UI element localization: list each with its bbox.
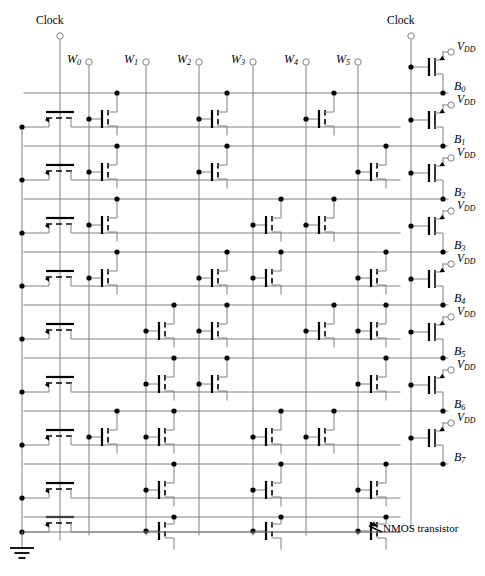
pmos-source-junction [440,143,445,148]
clock-nmos-drain-wire [71,118,400,127]
word-line-junction [355,487,360,492]
word-line-junction [196,116,201,121]
word-line-junction [143,328,148,333]
word-line-junction [143,528,148,533]
word-line-junction [143,381,148,386]
rom-drain-junction [224,355,229,360]
rom-drain-wire [108,411,117,430]
pmos-arrow-icon [440,427,446,431]
word-line-junction [355,328,360,333]
vdd-terminal[interactable] [448,49,454,55]
word-line-terminal-3[interactable] [250,59,256,65]
rom-drain-wire [218,252,227,271]
word-line-terminal-0[interactable] [86,59,92,65]
word-line-junction [86,434,91,439]
vdd-terminal[interactable] [448,314,454,320]
rom-drain-junction [171,355,176,360]
rom-drain-wire [165,464,174,483]
rom-drain-wire [377,305,386,324]
word-line-label-0: W0 [67,53,81,67]
pmos-source-wire [435,180,443,199]
rom-drain-wire [108,146,117,165]
rom-drain-junction [331,408,336,413]
clock-terminal-right[interactable] [408,33,414,39]
word-line-junction [86,169,91,174]
pmos-arrow-icon [440,215,446,219]
clock-nmos-drain-wire [71,330,400,339]
ground-rail-junction [19,124,24,129]
ground-rail-junction [19,442,24,447]
vdd-terminal[interactable] [448,102,454,108]
word-line-junction [303,434,308,439]
rom-drain-junction [383,461,388,466]
ground-rail-junction [19,389,24,394]
word-line-junction [250,434,255,439]
rom-drain-wire [325,93,334,112]
rom-drain-wire [218,146,227,165]
rom-drain-junction [383,249,388,254]
word-line-label-3: W3 [231,53,245,67]
pmos-gate-junction [408,117,413,122]
word-line-junction [143,487,148,492]
vdd-terminal[interactable] [448,155,454,161]
pmos-source-wire [435,74,443,93]
word-line-terminal-1[interactable] [143,59,149,65]
rom-drain-wire [377,252,386,271]
pmos-source-junction [440,408,445,413]
rom-drain-junction [224,249,229,254]
vdd-terminal[interactable] [448,261,454,267]
clock-nmos-source-wire [22,224,49,233]
rom-drain-wire [377,464,386,483]
word-line-terminal-5[interactable] [355,59,361,65]
pmos-source-wire [435,233,443,252]
rom-drain-junction [331,302,336,307]
clock-label-left: Clock [36,15,63,27]
word-line-junction [250,528,255,533]
pmos-arrow-icon [440,321,446,325]
clock-nmos-source-wire [22,277,49,286]
vdd-terminal[interactable] [448,367,454,373]
word-line-junction [86,222,91,227]
rom-drain-wire [218,358,227,377]
pmos-source-wire [435,392,443,411]
pmos-gate-junction [408,382,413,387]
pmos-source-wire [435,339,443,358]
rom-drain-junction [383,143,388,148]
rom-drain-junction [171,302,176,307]
pmos-gate-junction [408,276,413,281]
word-line-junction [355,381,360,386]
word-line-junction [250,487,255,492]
word-line-junction [250,275,255,280]
vdd-label: VDD [457,94,475,107]
rom-drain-wire [108,199,117,218]
rom-source-wire [377,538,386,549]
clock-nmos-drain-wire [71,523,400,532]
clock-nmos-drain-wire [71,171,400,180]
rom-drain-junction [383,302,388,307]
word-line-terminal-2[interactable] [196,59,202,65]
ground-rail-junction [19,495,24,500]
pmos-arrow-icon [440,56,446,60]
ground-rail-junction [19,336,24,341]
vdd-terminal[interactable] [448,420,454,426]
word-line-junction [250,222,255,227]
rom-drain-wire [325,411,334,430]
rom-drain-wire [325,305,334,324]
rom-drain-junction [331,196,336,201]
word-line-junction [196,169,201,174]
clock-nmos-drain-wire [71,383,400,392]
word-line-junction [86,275,91,280]
circuit-diagram: ClockClockW0W1W2W3W4W5B0B1B2B3B4B5B6B7VD… [0,0,485,576]
rom-drain-junction [114,196,119,201]
clock-nmos-drain-wire [71,489,400,498]
vdd-label: VDD [457,147,475,160]
pmos-gate-junction [408,223,413,228]
clock-nmos-source-wire [22,330,49,339]
word-line-terminal-4[interactable] [303,59,309,65]
pmos-arrow-icon [440,268,446,272]
word-line-junction [303,116,308,121]
vdd-terminal[interactable] [448,208,454,214]
clock-terminal-left[interactable] [57,33,63,39]
pmos-source-junction [440,90,445,95]
rom-drain-wire [108,252,117,271]
